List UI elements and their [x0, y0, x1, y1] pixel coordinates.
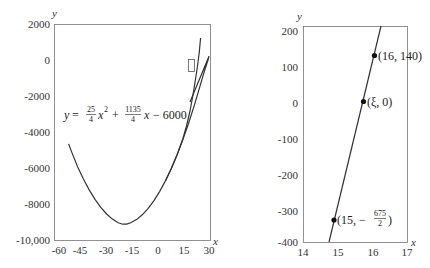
svg-text:17: 17 — [402, 246, 414, 258]
figure: y x 2000 0 -2000 -4000 -6000 -8000 -10,0… — [0, 0, 430, 268]
svg-text:=: = — [72, 108, 79, 122]
equation-label: y = 25 4 x 2 + 1135 4 x − 6000 — [63, 105, 187, 124]
svg-text:675: 675 — [374, 209, 386, 218]
svg-text:-8000: -8000 — [24, 198, 50, 210]
svg-text:14: 14 — [298, 246, 310, 258]
svg-text:25: 25 — [87, 105, 95, 114]
svg-text:): ) — [388, 213, 392, 227]
svg-text:+: + — [112, 108, 119, 122]
left-plot-frame — [55, 25, 211, 241]
svg-text:16: 16 — [368, 246, 380, 258]
svg-text:0: 0 — [293, 97, 299, 109]
svg-text:-2000: -2000 — [24, 90, 50, 102]
svg-text:-45: -45 — [73, 244, 88, 256]
svg-text:1135: 1135 — [125, 105, 141, 114]
svg-text:x: x — [97, 108, 104, 122]
left-x-ticks: -60 -45 -30 -15 0 15 30 — [52, 244, 215, 256]
svg-text:4: 4 — [89, 115, 93, 124]
parabola-curve — [69, 56, 209, 224]
svg-text:-6000: -6000 — [24, 162, 50, 174]
svg-text:-300: -300 — [278, 205, 299, 217]
svg-text:-15: -15 — [125, 244, 140, 256]
zoom-region-box — [189, 60, 195, 72]
svg-text:0: 0 — [155, 244, 161, 256]
right-y-ticks: 200 100 0 -100 -200 -300 -400 — [278, 25, 299, 248]
svg-text:2000: 2000 — [28, 18, 51, 30]
svg-text:-10,000: -10,000 — [16, 234, 50, 246]
right-x-ticks: 14 15 16 17 — [298, 246, 414, 258]
left-y-ticks: 2000 0 -2000 -4000 -6000 -8000 -10,000 — [16, 18, 50, 246]
svg-text:2: 2 — [378, 219, 382, 228]
svg-text:(ξ, 0): (ξ, 0) — [367, 95, 392, 109]
right-chart: y x 200 100 0 -100 -200 -300 -400 14 15 … — [278, 10, 422, 258]
svg-text:-4000: -4000 — [24, 126, 50, 138]
svg-text:-100: -100 — [278, 133, 299, 145]
point-xi-0: (ξ, 0) — [361, 95, 392, 109]
left-chart: y x 2000 0 -2000 -4000 -6000 -8000 -10,0… — [16, 7, 218, 256]
svg-text:-200: -200 — [278, 169, 299, 181]
svg-text:0: 0 — [45, 54, 51, 66]
svg-text:(16, 140): (16, 140) — [378, 49, 422, 63]
svg-text:2: 2 — [104, 105, 108, 114]
svg-text:y: y — [63, 108, 70, 122]
svg-text:-60: -60 — [52, 244, 67, 256]
svg-text:15: 15 — [333, 246, 345, 258]
svg-text:30: 30 — [204, 244, 216, 256]
svg-text:4: 4 — [131, 115, 135, 124]
svg-text:-30: -30 — [99, 244, 114, 256]
svg-text:15: 15 — [179, 244, 191, 256]
left-y-axis-label: y — [51, 7, 57, 19]
svg-text:100: 100 — [282, 61, 299, 73]
svg-text:− 6000: − 6000 — [153, 108, 187, 122]
point-15-neg675-2: (15, − 675 2 ) — [331, 209, 392, 228]
svg-text:x: x — [143, 108, 150, 122]
svg-text:200: 200 — [282, 25, 299, 37]
svg-text:-400: -400 — [278, 236, 299, 248]
svg-text:(15, −: (15, − — [337, 213, 366, 227]
point-16-140: (16, 140) — [372, 49, 422, 63]
right-y-axis-label: y — [296, 10, 302, 22]
